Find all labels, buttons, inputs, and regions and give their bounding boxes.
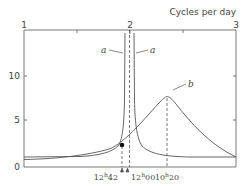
left-tick-5: 5 bbox=[14, 115, 20, 125]
label-a-left: a bbox=[101, 45, 106, 55]
resonance-chart: Cycles per day 1 2 3 0 5 10 bbox=[0, 0, 248, 186]
curves bbox=[24, 33, 236, 160]
label-b: b bbox=[188, 79, 194, 89]
label-a-right: a bbox=[150, 45, 155, 55]
x-axis-title: Cycles per day bbox=[169, 7, 236, 17]
curve-a-left bbox=[24, 33, 125, 157]
plot-frame bbox=[24, 30, 236, 167]
intersection-marker bbox=[120, 143, 125, 148]
curve-b bbox=[24, 97, 236, 160]
period-label-12h00: 12h00 bbox=[131, 171, 155, 182]
top-tick-3: 3 bbox=[233, 20, 239, 30]
top-tick-2: 2 bbox=[127, 20, 133, 30]
period-label-12h42: 12h42 bbox=[94, 171, 118, 182]
period-label-10h20: 10h20 bbox=[155, 171, 179, 182]
top-tick-1: 1 bbox=[21, 20, 27, 30]
left-tick-0: 0 bbox=[14, 162, 20, 172]
left-tick-10: 10 bbox=[9, 71, 21, 81]
